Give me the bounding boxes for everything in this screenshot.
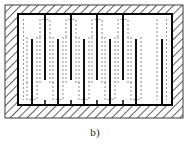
inner-cavity-outline [18,14,172,105]
figure-container: b) [0,0,190,144]
serpentine-pattern-diagram [0,0,190,144]
